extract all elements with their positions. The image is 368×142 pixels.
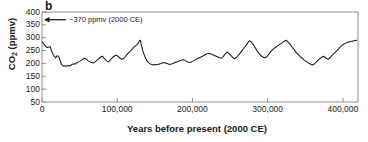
y-tick-label: 250 [14, 46, 40, 55]
y-tick-label: 150 [14, 72, 40, 81]
y-tick-label: 300 [14, 33, 40, 42]
data-series-group [42, 40, 357, 66]
x-axis-ticks [42, 98, 343, 102]
y-tick-label: 400 [14, 8, 40, 17]
chart-plot-area [0, 0, 368, 142]
y-axis-tick-labels: 40035030025020015010050 [0, 0, 40, 142]
co2-series-line [42, 40, 357, 66]
panel-label-b: b [45, 0, 52, 13]
x-tick-label: 0 [40, 104, 45, 114]
annotation-arrow [44, 17, 66, 23]
y-tick-label: 350 [14, 20, 40, 29]
y-axis-ticks [42, 12, 46, 102]
co2-chart-figure: b CO2 (ppmv) 40035030025020015010050 Yea… [0, 0, 368, 142]
y-tick-label: 100 [14, 85, 40, 94]
x-tick-label: 400,000 [328, 104, 359, 114]
x-tick-label: 300,000 [252, 104, 283, 114]
y-tick-label: 50 [14, 98, 40, 107]
annotation-label: ~370 ppmv (2000 CE) [69, 15, 143, 24]
x-tick-label: 200,000 [177, 104, 208, 114]
x-axis-label: Years before present (2000 CE) [36, 123, 358, 134]
y-tick-label: 200 [14, 59, 40, 68]
x-tick-label: 100,000 [102, 104, 133, 114]
